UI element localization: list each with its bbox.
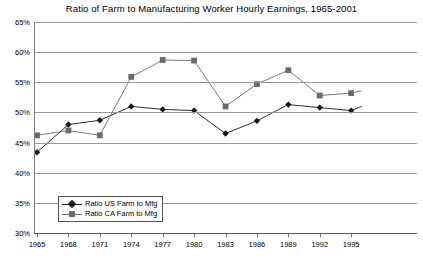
y-tick-label: 50% (15, 108, 30, 117)
x-tick-mark (194, 233, 195, 237)
y-tick-label: 45% (15, 138, 30, 147)
x-tick-label: 1983 (217, 240, 234, 249)
x-tick-label: 1965 (29, 240, 46, 249)
x-tick-label: 1980 (186, 240, 203, 249)
x-tick-label: 1971 (91, 240, 108, 249)
x-tick-label: 1995 (343, 240, 360, 249)
y-tick-label: 55% (15, 78, 30, 87)
y-tick-label: 60% (15, 48, 30, 57)
legend-marker-square-icon (62, 210, 82, 219)
x-tick-label: 1989 (280, 240, 297, 249)
x-tick-mark (320, 233, 321, 237)
x-tick-label: 1977 (154, 240, 171, 249)
x-tick-label: 1974 (123, 240, 140, 249)
legend-item: Ratio CA Farm to Mfg (62, 209, 158, 219)
y-tick-label: 35% (15, 198, 30, 207)
x-tick-mark (100, 233, 101, 237)
legend-item: Ratio US Farm to Mfg (62, 199, 158, 209)
y-tick-label: 65% (15, 18, 30, 27)
y-axis-labels: 65%60%55%50%45%40%35%30% (0, 22, 30, 233)
chart-container: Ratio of Farm to Manufacturing Worker Ho… (0, 0, 423, 275)
x-tick-mark (37, 233, 38, 237)
x-axis-labels: 1965196819711974197719801983198619891992… (0, 240, 423, 256)
y-tick-label: 40% (15, 168, 30, 177)
y-tick-label: 30% (15, 229, 30, 238)
chart-title: Ratio of Farm to Manufacturing Worker Ho… (0, 3, 423, 14)
x-tick-mark (288, 233, 289, 237)
chart-legend: Ratio US Farm to Mfg Ratio CA Farm to Mf… (58, 196, 163, 222)
x-tick-mark (226, 233, 227, 237)
x-tick-mark (351, 233, 352, 237)
legend-label-us: Ratio US Farm to Mfg (85, 199, 158, 209)
legend-label-ca: Ratio CA Farm to Mfg (85, 209, 157, 219)
x-tick-mark (163, 233, 164, 237)
x-tick-label: 1968 (60, 240, 77, 249)
x-tick-label: 1992 (311, 240, 328, 249)
legend-marker-diamond-icon (62, 200, 82, 209)
x-tick-label: 1986 (249, 240, 266, 249)
x-tick-mark (131, 233, 132, 237)
x-tick-mark (257, 233, 258, 237)
x-tick-mark (68, 233, 69, 237)
